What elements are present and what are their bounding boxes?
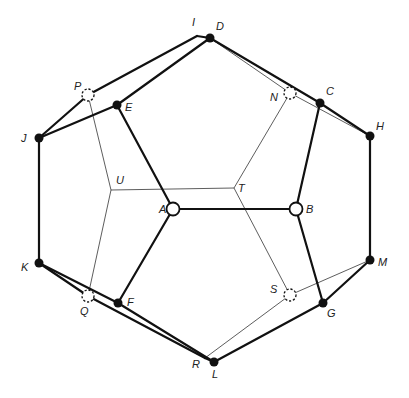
vertex-C: [316, 99, 325, 108]
vertex-M: [366, 256, 375, 265]
vertex-label-Q: Q: [80, 305, 89, 317]
vertex-B: [290, 203, 303, 216]
vertex-A: [167, 203, 180, 216]
vertex-label-K: K: [21, 261, 29, 273]
vertex-label-I: I: [192, 16, 195, 28]
vertex-label-F: F: [127, 296, 135, 308]
vertex-label-C: C: [326, 85, 334, 97]
hidden-edge-T-N: [234, 93, 290, 188]
vertex-L: [210, 358, 219, 367]
edge-J-P: [39, 95, 88, 138]
edge-F-L: [118, 303, 214, 362]
edge-E-J: [39, 105, 117, 138]
edge-K-F: [39, 263, 118, 303]
edge-B-C: [296, 103, 320, 209]
vertex-labels: ABCDEFGHIJKLMNPQRSTU: [20, 16, 388, 380]
vertex-K: [35, 259, 44, 268]
vertex-S: [284, 289, 296, 301]
edge-R-Q: [88, 296, 205, 358]
vertex-E: [113, 101, 122, 110]
edge-B-G: [296, 209, 323, 303]
edge-M-G: [323, 260, 370, 303]
hidden-edge-T-S: [234, 188, 290, 295]
vertex-label-S: S: [270, 283, 278, 295]
edge-A-F: [118, 209, 173, 303]
vertex-label-T: T: [238, 182, 246, 194]
vertex-label-L: L: [212, 368, 218, 380]
hidden-edge-U-T: [111, 188, 234, 190]
vertex-H: [366, 132, 375, 141]
vertex-label-N: N: [270, 91, 278, 103]
vertex-label-U: U: [116, 174, 124, 186]
dodecahedron-diagram: ABCDEFGHIJKLMNPQRSTU: [0, 0, 409, 398]
vertex-N: [284, 87, 296, 99]
edge-G-L: [214, 303, 323, 362]
edge-D-C: [210, 38, 320, 103]
vertex-label-R: R: [192, 358, 200, 370]
vertex-label-E: E: [125, 101, 133, 113]
vertex-label-A: A: [158, 203, 166, 215]
vertex-D: [206, 34, 215, 43]
vertex-Q: [82, 290, 94, 302]
vertex-label-D: D: [216, 20, 224, 32]
edge-C-H: [320, 103, 370, 136]
vertex-label-B: B: [306, 203, 313, 215]
hidden-edge-U-Q: [88, 190, 111, 296]
vertex-label-M: M: [378, 256, 388, 268]
vertex-P: [82, 89, 94, 101]
hidden-edge-S-M: [290, 260, 370, 295]
vertex-J: [35, 134, 44, 143]
vertex-F: [114, 299, 123, 308]
vertex-label-H: H: [376, 120, 384, 132]
vertex-label-G: G: [327, 307, 336, 319]
hidden-edge-S-R: [205, 295, 290, 358]
vertex-label-J: J: [20, 132, 27, 144]
vertex-label-P: P: [74, 80, 82, 92]
hidden-edge-N-H: [290, 93, 370, 136]
edge-A-E: [117, 105, 173, 209]
visible-edges: [39, 36, 370, 362]
